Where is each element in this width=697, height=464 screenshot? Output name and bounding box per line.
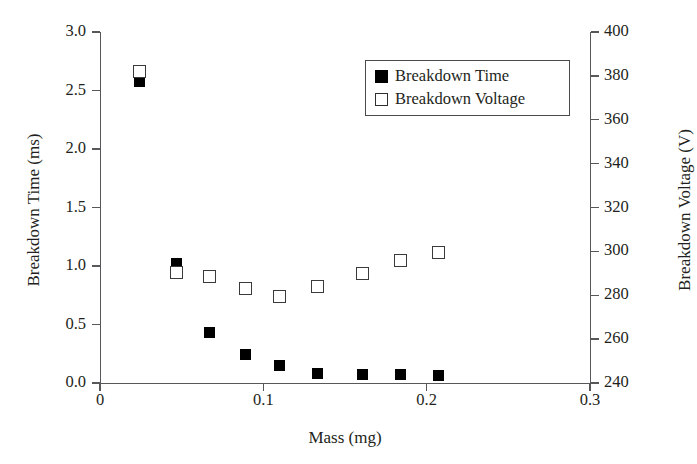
- y-axis-left-tick-label: 0.5: [40, 316, 86, 333]
- data-point-breakdown-time: [274, 360, 285, 371]
- x-axis-tick-label: 0.2: [397, 392, 457, 409]
- y-axis-left-tick: [92, 324, 100, 325]
- y-axis-right-title: Breakdown Voltage (V): [675, 90, 695, 330]
- data-point-breakdown-time: [395, 369, 406, 380]
- y-axis-left-tick-label: 2.0: [40, 140, 86, 157]
- data-point-breakdown-voltage: [356, 267, 369, 280]
- y-axis-right-tick: [591, 338, 599, 339]
- y-axis-right-tick-label: 240: [604, 374, 650, 391]
- y-axis-left-tick-label: 2.5: [40, 82, 86, 99]
- x-axis-line: [100, 383, 591, 384]
- legend-label-breakdown-time: Breakdown Time: [395, 68, 509, 85]
- data-point-breakdown-voltage: [432, 246, 445, 259]
- x-axis-tick-label: 0: [70, 392, 130, 409]
- y-axis-left-tick-label: 3.0: [40, 23, 86, 40]
- data-point-breakdown-voltage: [273, 290, 286, 303]
- y-axis-right-tick-label: 260: [604, 330, 650, 347]
- y-axis-right-tick: [591, 119, 599, 120]
- open-square-icon: [375, 93, 388, 106]
- y-axis-right-tick: [591, 75, 599, 76]
- chart-legend: Breakdown Time Breakdown Voltage: [365, 60, 570, 116]
- data-point-breakdown-voltage: [133, 65, 146, 78]
- y-axis-right-tick: [591, 31, 599, 32]
- y-axis-right-tick-label: 380: [604, 67, 650, 84]
- data-point-breakdown-voltage: [311, 280, 324, 293]
- y-axis-right-tick: [591, 163, 599, 164]
- y-axis-left-tick-label: 0.0: [40, 374, 86, 391]
- data-point-breakdown-time: [240, 349, 251, 360]
- data-point-breakdown-time: [204, 327, 215, 338]
- legend-label-breakdown-voltage: Breakdown Voltage: [395, 91, 525, 108]
- y-axis-left-tick: [92, 265, 100, 266]
- y-axis-left-line: [100, 32, 101, 384]
- y-axis-right-tick-label: 400: [604, 23, 650, 40]
- x-axis-tick-label: 0.3: [560, 392, 620, 409]
- data-point-breakdown-time: [312, 368, 323, 379]
- y-axis-right-tick: [591, 295, 599, 296]
- filled-square-icon: [375, 70, 388, 83]
- y-axis-left-tick: [92, 207, 100, 208]
- y-axis-left-tick-label: 1.5: [40, 199, 86, 216]
- legend-item-breakdown-voltage: Breakdown Voltage: [375, 88, 561, 111]
- y-axis-left-title: Breakdown Time (ms): [24, 90, 44, 330]
- x-axis-tick-label: 0.1: [233, 392, 293, 409]
- y-axis-left-tick-label: 1.0: [40, 257, 86, 274]
- data-point-breakdown-voltage: [394, 254, 407, 267]
- y-axis-right-tick: [591, 251, 599, 252]
- y-axis-left-tick: [92, 148, 100, 149]
- x-axis-title: Mass (mg): [285, 428, 405, 448]
- data-point-breakdown-voltage: [239, 282, 252, 295]
- y-axis-left-tick: [92, 31, 100, 32]
- y-axis-right-tick-label: 360: [604, 111, 650, 128]
- data-point-breakdown-time: [357, 369, 368, 380]
- y-axis-right-tick-label: 340: [604, 155, 650, 172]
- y-axis-right-tick: [591, 382, 599, 383]
- legend-item-breakdown-time: Breakdown Time: [375, 65, 561, 88]
- chart-figure: 0.00.51.01.52.02.53.0 240260280300320340…: [0, 0, 697, 464]
- y-axis-left-tick: [92, 90, 100, 91]
- y-axis-right-tick: [591, 207, 599, 208]
- data-point-breakdown-voltage: [170, 266, 183, 279]
- data-point-breakdown-voltage: [203, 270, 216, 283]
- y-axis-right-tick-label: 300: [604, 242, 650, 259]
- y-axis-right-tick-label: 280: [604, 286, 650, 303]
- data-point-breakdown-time: [433, 370, 444, 381]
- y-axis-right-tick-label: 320: [604, 199, 650, 216]
